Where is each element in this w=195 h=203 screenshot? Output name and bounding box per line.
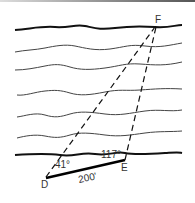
water-line-3 — [17, 89, 182, 96]
water-line-1 — [15, 43, 182, 52]
top-bank-line — [15, 25, 182, 30]
bottom-bank-line — [15, 152, 182, 155]
point-label-F: F — [155, 14, 161, 25]
point-label-D: D — [41, 179, 48, 190]
river-triangle-diagram: F D E 41° 117° 200' — [0, 0, 195, 203]
baseline-length-label: 200' — [77, 170, 98, 185]
point-label-E: E — [121, 162, 128, 173]
water-line-4 — [17, 110, 182, 117]
water-line-5 — [17, 131, 182, 138]
water-line-2 — [15, 62, 182, 70]
angle-label-D: 41° — [55, 159, 70, 170]
angle-label-E: 117° — [101, 149, 121, 160]
